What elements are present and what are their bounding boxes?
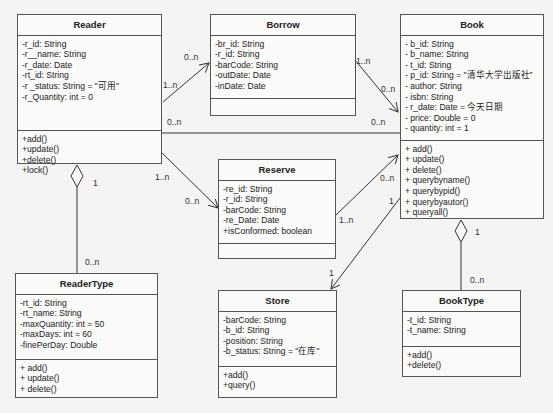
method: + update()	[20, 373, 153, 384]
methods: +add() +update() +delete() +lock()	[18, 130, 161, 179]
attributes: -rt_id: String -rt_name: String -maxQuan…	[16, 295, 157, 359]
method: +update()	[22, 144, 157, 155]
attribute: -t_name: String	[407, 325, 516, 336]
method: + queryall()	[405, 207, 539, 218]
class-name: BookType	[403, 291, 520, 312]
attribute: -r _status: String = "可用"	[22, 81, 157, 92]
attribute: -maxDays: int = 60	[20, 329, 153, 340]
attributes: -br_id: String -r_id: String -barCode: S…	[211, 36, 355, 98]
attribute: - isbn: String	[405, 92, 539, 103]
multiplicity-label: 1..n	[163, 80, 177, 90]
method: + querybyname()	[405, 175, 539, 186]
method: +delete()	[22, 155, 157, 166]
method: +add()	[22, 134, 157, 145]
class-reader[interactable]: Reader -r_id: String -r__name: String -r…	[17, 14, 162, 164]
attribute: -outDate: Date	[215, 70, 351, 81]
attribute: -rt_name: String	[20, 308, 153, 319]
attribute: - price: Double = 0	[405, 113, 539, 124]
method: +add()	[407, 350, 516, 361]
multiplicity-label: 0..n	[470, 275, 484, 285]
attribute: -maxQuantity: int = 50	[20, 319, 153, 330]
attribute: -r__name: String	[22, 49, 157, 60]
attribute: - quantity: int = 1	[405, 123, 539, 134]
multiplicity-label: 0..n	[167, 117, 181, 127]
attribute: -b_id: String	[223, 325, 332, 336]
class-name: ReaderType	[16, 274, 157, 295]
class-name: Borrow	[211, 15, 355, 36]
multiplicity-label: 0..n	[85, 257, 99, 267]
attribute: -r_Quantity: int = 0	[22, 92, 157, 103]
method: +lock()	[22, 165, 157, 176]
methods	[211, 98, 355, 105]
methods: + add() + update() + delete()	[16, 359, 157, 398]
attribute: - author: String	[405, 81, 539, 92]
class-name: Reserve	[219, 160, 335, 181]
class-borrow[interactable]: Borrow -br_id: String -r_id: String -bar…	[210, 14, 356, 116]
method: + delete()	[405, 165, 539, 176]
attribute: -r_date: Date	[22, 60, 157, 71]
class-name: Store	[219, 291, 336, 312]
multiplicity-label: 1	[475, 227, 480, 237]
class-booktype[interactable]: BookType -t_id: String -t_name: String +…	[402, 290, 521, 377]
multiplicity-label: 1..n	[339, 215, 353, 225]
attribute: -barCode: String	[215, 60, 351, 71]
multiplicity-label: 0..n	[371, 117, 385, 127]
multiplicity-label: 1..n	[155, 172, 169, 182]
multiplicity-label: 0..n	[381, 84, 395, 94]
multiplicity-label: 0..n	[380, 173, 394, 183]
attributes: -re_id: String -r_id: String -barCode: S…	[219, 181, 335, 243]
method: + add()	[20, 363, 153, 374]
attribute: - b_id: String	[405, 39, 539, 50]
attribute: -r_id: String	[215, 49, 351, 60]
class-book[interactable]: Book - b_id: String - b_name: String - t…	[400, 14, 544, 219]
attribute: -re_id: String	[223, 184, 331, 195]
multiplicity-label: 1	[389, 196, 394, 206]
multiplicity-label: 0..n	[184, 52, 198, 62]
class-store[interactable]: Store -barCode: String -b_id: String -po…	[218, 290, 337, 398]
attribute: -inDate: Date	[215, 81, 351, 92]
attribute: -r_id: String	[22, 39, 157, 50]
multiplicity-label: 1	[329, 268, 334, 278]
attribute: -b_status: String = "在库"	[223, 346, 332, 357]
attribute: -barCode: String	[223, 315, 332, 326]
method: +add()	[223, 370, 332, 381]
method: + delete()	[20, 384, 153, 395]
methods: + add() + update() + delete() + querybyn…	[401, 140, 543, 221]
method: + update()	[405, 154, 539, 165]
attribute: -r_id: String	[223, 194, 331, 205]
multiplicity-label: 0..n	[185, 196, 199, 206]
attribute: -t_id: String	[407, 315, 516, 326]
method: + add()	[405, 144, 539, 155]
class-readertype[interactable]: ReaderType -rt_id: String -rt_name: Stri…	[15, 273, 158, 398]
attributes: -barCode: String -b_id: String -position…	[219, 312, 336, 366]
class-name: Reader	[18, 15, 161, 36]
attribute: -position: String	[223, 336, 332, 347]
methods: +add() +query()	[219, 366, 336, 394]
attribute: +isConformed: boolean	[223, 226, 331, 237]
class-reserve[interactable]: Reserve -re_id: String -r_id: String -ba…	[218, 159, 336, 259]
attribute: -barCode: String	[223, 205, 331, 216]
attributes: - b_id: String - b_name: String - t_id: …	[401, 36, 543, 140]
attribute: - p_id: String = "清华大学出版社"	[405, 70, 539, 81]
method: + querybypid()	[405, 186, 539, 197]
attribute: -rt_id: String	[20, 298, 153, 309]
attribute: - r_date: Date = 今天日期	[405, 102, 539, 113]
attribute: - b_name: String	[405, 49, 539, 60]
methods: +add() +delete()	[403, 346, 520, 374]
attribute: - t_id: String	[405, 60, 539, 71]
attributes: -t_id: String -t_name: String	[403, 312, 520, 346]
attributes: -r_id: String -r__name: String -r_date: …	[18, 36, 161, 130]
multiplicity-label: 1..n	[356, 56, 370, 66]
method: + querybyautor()	[405, 197, 539, 208]
method: +query()	[223, 380, 332, 391]
attribute: -rt_id: String	[22, 70, 157, 81]
attribute: -re_Date: Date	[223, 215, 331, 226]
attribute: -br_id: String	[215, 39, 351, 50]
attribute: -finePerDay: Double	[20, 340, 153, 351]
multiplicity-label: 1	[93, 178, 98, 188]
class-name: Book	[401, 15, 543, 36]
methods	[219, 243, 335, 250]
method: +delete()	[407, 360, 516, 371]
